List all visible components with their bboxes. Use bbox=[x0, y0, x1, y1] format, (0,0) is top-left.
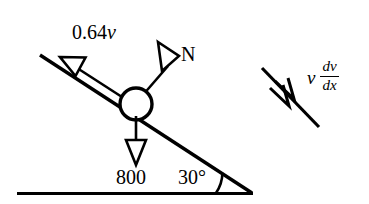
normal-force-label: N bbox=[181, 44, 195, 64]
acceleration-expression-label: v dv dx bbox=[307, 59, 339, 94]
angle-arc bbox=[216, 173, 222, 193]
friction-arrow-head bbox=[60, 57, 86, 76]
normal-arrow-head bbox=[158, 42, 179, 71]
weight-arrow-head bbox=[126, 140, 146, 165]
derivative-denominator: dx bbox=[320, 78, 338, 94]
friction-force-label: 0.64v bbox=[72, 22, 116, 42]
acceleration-variable: v bbox=[307, 68, 315, 87]
incline-angle-label: 30° bbox=[178, 167, 206, 187]
block-circle bbox=[120, 88, 152, 120]
friction-force-magnitude: 0.64 bbox=[72, 21, 107, 43]
incline-line bbox=[40, 55, 252, 193]
derivative-fraction: dv dx bbox=[320, 59, 338, 94]
weight-label: 800 bbox=[116, 167, 146, 187]
friction-force-variable: v bbox=[107, 21, 116, 43]
derivative-numerator: dv bbox=[320, 59, 338, 75]
